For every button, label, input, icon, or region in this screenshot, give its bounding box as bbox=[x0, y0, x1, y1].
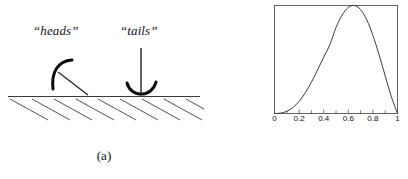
heads-stem bbox=[58, 72, 88, 95]
ground-hatching bbox=[10, 99, 204, 120]
panel-a-coin-diagram: “heads” “tails” bbox=[0, 0, 204, 179]
x-tick-label: 0 bbox=[264, 114, 286, 123]
plot-frame bbox=[275, 6, 398, 114]
caption-a: (a) bbox=[74, 148, 134, 164]
heads-coin-arc bbox=[53, 60, 72, 89]
panel-b-density-plot: p(θ|ξ) θ (b) 00.20.40.60.81 bbox=[204, 0, 408, 179]
density-chart-canvas bbox=[204, 0, 408, 179]
x-tick-label: 1 bbox=[387, 114, 408, 123]
x-tick-label: 0.2 bbox=[288, 114, 310, 123]
tails-coin-arc bbox=[127, 82, 156, 94]
x-axis-ticks bbox=[275, 110, 398, 114]
heads-label: “heads” bbox=[33, 23, 79, 39]
x-tick-label: 0.8 bbox=[362, 114, 384, 123]
figure-root: “heads” “tails” bbox=[0, 0, 408, 179]
density-curve bbox=[275, 5, 398, 113]
x-tick-label: 0.6 bbox=[337, 114, 359, 123]
x-tick-label: 0.4 bbox=[313, 114, 335, 123]
tails-label: “tails” bbox=[120, 23, 158, 39]
